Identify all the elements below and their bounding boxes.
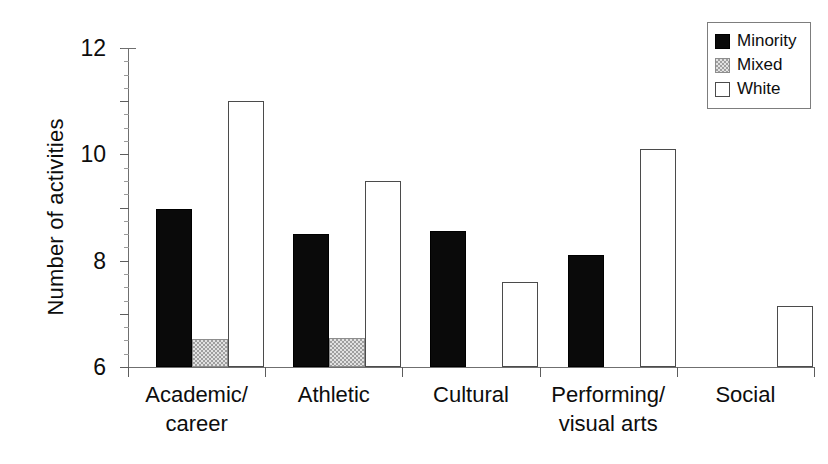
x-axis-label-line: Social [677,380,814,409]
x-axis-label-line: Academic/ [128,380,265,409]
x-separator [540,367,541,377]
bar-mixed-0 [192,339,228,367]
bar-white-4 [777,306,813,367]
bar-chart: Number of activities 024681012 Academic/… [0,0,828,464]
legend-label: Mixed [737,55,782,75]
y-minor-tick [124,301,129,302]
legend-swatch-minority-icon [715,34,730,49]
x-axis-label-line: Performing/ [540,380,677,409]
x-axis-label-1: Athletic [265,380,402,409]
x-axis-label-0: Academic/career [128,380,265,438]
y-axis-title: Number of activities [43,77,69,357]
x-separator [402,367,403,377]
y-minor-tick [124,234,129,235]
y-tick-label-4: 4 [93,460,106,464]
bar-minority-0 [156,209,192,367]
x-axis-line [128,367,814,368]
x-axis-label-2: Cultural [402,380,539,409]
y-tick-4: 4 [120,261,129,262]
y-tick-10: 10 [120,101,129,102]
bar-white-0 [228,101,264,367]
y-minor-tick [124,340,129,341]
legend-item-white: White [715,77,803,101]
y-tick-label-6: 6 [93,354,106,381]
y-tick-8: 8 [120,154,129,155]
bar-minority-1 [293,234,329,367]
bar-white-3 [640,149,676,367]
x-axis-label-line: career [128,409,265,438]
y-tick-label-10: 10 [80,141,106,168]
bar-minority-3 [568,255,604,367]
bar-minority-2 [430,231,466,367]
y-minor-tick [124,194,129,195]
y-minor-tick [124,247,129,248]
legend-item-minority: Minority [715,29,803,53]
y-minor-tick [124,181,129,182]
y-minor-tick [124,221,129,222]
y-tick-label-12: 12 [80,35,106,62]
bar-white-2 [502,282,538,367]
y-minor-tick [124,141,129,142]
x-separator [814,367,815,377]
x-separator [128,367,129,377]
y-minor-tick [124,327,129,328]
y-minor-tick [124,354,129,355]
legend-swatch-mixed-icon [715,58,730,73]
x-axis-label-4: Social [677,380,814,409]
legend: MinorityMixedWhite [707,22,811,109]
y-axis-top-cap [121,48,136,49]
y-minor-tick [124,88,129,89]
legend-item-mixed: Mixed [715,53,803,77]
legend-swatch-white-icon [715,82,730,97]
y-minor-tick [124,61,129,62]
y-tick-6: 6 [120,208,129,209]
y-tick-label-8: 8 [93,247,106,274]
y-tick-2: 2 [120,314,129,315]
legend-label: Minority [737,31,797,51]
x-axis-label-line: Cultural [402,380,539,409]
bar-mixed-1 [329,338,365,367]
x-separator [265,367,266,377]
y-minor-tick [124,287,129,288]
y-minor-tick [124,168,129,169]
legend-label: White [737,79,780,99]
y-minor-tick [124,128,129,129]
x-separator [677,367,678,377]
x-axis-label-line: visual arts [540,409,677,438]
x-axis-label-line: Athletic [265,380,402,409]
bar-white-1 [365,181,401,367]
y-minor-tick [124,274,129,275]
y-minor-tick [124,75,129,76]
x-axis-label-3: Performing/visual arts [540,380,677,438]
y-minor-tick [124,114,129,115]
